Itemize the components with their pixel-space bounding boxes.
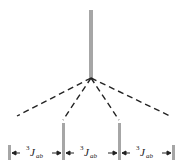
- coupling-label-1: 3 J ab: [26, 144, 44, 160]
- child-peak-4: [172, 145, 175, 160]
- child-peak-2: [62, 123, 65, 160]
- child-peak-1: [8, 145, 11, 160]
- splitting-diagram: 3 J ab 3 J ab 3 J ab: [0, 0, 184, 168]
- coupling-label-2: 3 J ab: [80, 144, 98, 160]
- coupling-label-3: 3 J ab: [136, 144, 154, 160]
- svg-text:ab: ab: [90, 152, 98, 160]
- child-peak-3: [118, 123, 121, 160]
- svg-text:ab: ab: [146, 152, 154, 160]
- svg-text:ab: ab: [36, 152, 44, 160]
- parent-peak-line: [89, 10, 93, 78]
- branch-line-2: [63, 78, 91, 120]
- branch-line-1: [17, 78, 91, 116]
